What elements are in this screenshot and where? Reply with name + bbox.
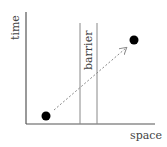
y-axis-label: time bbox=[9, 15, 22, 40]
start-event-dot bbox=[42, 112, 51, 121]
spacetime-diagram: time barrier space bbox=[0, 0, 167, 147]
end-event-dot bbox=[130, 36, 139, 45]
barrier-label: barrier bbox=[82, 30, 95, 70]
x-axis-label: space bbox=[130, 129, 162, 142]
